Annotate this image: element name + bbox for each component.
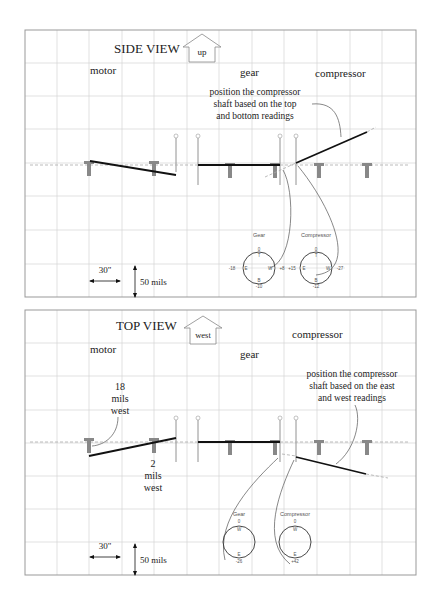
top-compressor-shaft: [296, 457, 366, 474]
top-scale: 30" 50 mils: [89, 541, 167, 576]
svg-text:50 mils: 50 mils: [140, 277, 167, 287]
side-view-title: SIDE VIEW: [114, 41, 181, 56]
side-scale: 30" 50 mils: [89, 265, 167, 298]
svg-text:-18: -18: [229, 266, 236, 271]
side-annotation-line-2: shaft based on the top: [214, 99, 297, 109]
svg-text:-10: -10: [256, 284, 263, 289]
top-motor-shaft: [89, 438, 176, 456]
side-indicator-posts: [174, 134, 298, 185]
top-view-panel: TOP VIEW west motor gear compressor posi…: [25, 310, 416, 576]
svg-text:-26: -26: [236, 559, 243, 564]
svg-text:+15: +15: [288, 266, 296, 271]
top-annotation-line-1: position the compressor: [307, 369, 399, 379]
side-compressor-label: compressor: [315, 67, 366, 79]
svg-text:+42: +42: [291, 559, 299, 564]
motor-note-2-line-1: 2: [151, 458, 156, 469]
side-compressor-leader: [298, 166, 338, 275]
svg-text:B: B: [314, 278, 317, 283]
svg-text:-12: -12: [313, 284, 320, 289]
top-compressor-label: compressor: [292, 328, 343, 340]
side-compressor-shaft: [296, 132, 367, 163]
top-gear-dial: Gear 0 W E -26: [223, 511, 255, 564]
top-view-direction-label: west: [195, 330, 211, 340]
svg-text:E: E: [293, 552, 296, 557]
top-annotation-line-2: shaft based on the east: [309, 381, 395, 391]
side-view-direction-label: up: [198, 47, 208, 57]
svg-text:50 mils: 50 mils: [140, 555, 167, 565]
motor-note-18-line-3: west: [111, 405, 130, 416]
svg-text:-27: -27: [337, 266, 344, 271]
svg-text:0: 0: [258, 247, 261, 252]
svg-text:W: W: [326, 266, 331, 271]
svg-text:0: 0: [238, 519, 241, 524]
top-motor-label: motor: [90, 343, 117, 355]
top-gear-label: gear: [240, 348, 259, 360]
svg-text:E: E: [302, 266, 305, 271]
side-compressor-dial-title: Compressor: [301, 232, 331, 238]
top-machine-feet: [84, 438, 372, 455]
side-gear-label: gear: [240, 66, 259, 78]
svg-text:T: T: [258, 253, 261, 258]
svg-text:W: W: [268, 266, 273, 271]
svg-text:T: T: [315, 253, 318, 258]
top-annotation-leader: [336, 405, 358, 464]
svg-text:0: 0: [294, 519, 297, 524]
svg-text:30": 30": [99, 541, 112, 551]
side-gear-leader: [270, 170, 291, 268]
motor-note-2-line-2: mils: [144, 470, 161, 481]
svg-text:E: E: [244, 266, 247, 271]
side-gear-dial: Gear 0 T -18 E W +8 B -10: [229, 232, 288, 289]
svg-text:30": 30": [99, 265, 112, 275]
side-machine-feet: [84, 161, 372, 178]
motor-note-18-line-1: 18: [115, 381, 125, 392]
top-annotation-line-3: and west readings: [318, 393, 386, 403]
side-compressor-extension: [367, 127, 376, 132]
top-compressor-dial-title: Compressor: [280, 511, 310, 517]
side-motor-label: motor: [90, 64, 117, 76]
svg-text:+8: +8: [279, 266, 285, 271]
top-indicator-posts: [174, 416, 298, 462]
motor-note-18-line-2: mils: [111, 393, 128, 404]
svg-text:W: W: [237, 527, 242, 532]
side-annotation-leader: [312, 104, 341, 137]
top-view-title: TOP VIEW: [116, 318, 178, 333]
side-gear-dial-title: Gear: [253, 232, 265, 238]
side-view-panel: SIDE VIEW up motor gear compressor posit…: [25, 30, 416, 298]
svg-text:B: B: [257, 278, 260, 283]
svg-text:W: W: [293, 527, 298, 532]
top-gear-dial-title: Gear: [233, 511, 245, 517]
svg-text:E: E: [237, 552, 240, 557]
side-annotation-line-1: position the compressor: [210, 87, 302, 97]
side-annotation-line-3: and bottom readings: [216, 111, 294, 121]
motor-note-2-line-3: west: [144, 482, 163, 493]
